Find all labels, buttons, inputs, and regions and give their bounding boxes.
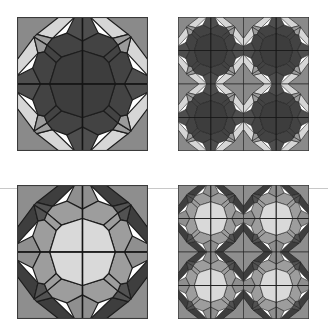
quilt-block-svg [17, 17, 148, 151]
quilt-panel-bottom-left [17, 185, 148, 319]
quilt-block-svg [17, 185, 148, 319]
quilt-panel-top-right [178, 17, 309, 151]
quilt-panel-bottom-right [178, 185, 309, 319]
quilt-block-svg [178, 185, 309, 319]
quilt-block-svg [178, 17, 309, 151]
quilt-panel-top-left [17, 17, 148, 151]
